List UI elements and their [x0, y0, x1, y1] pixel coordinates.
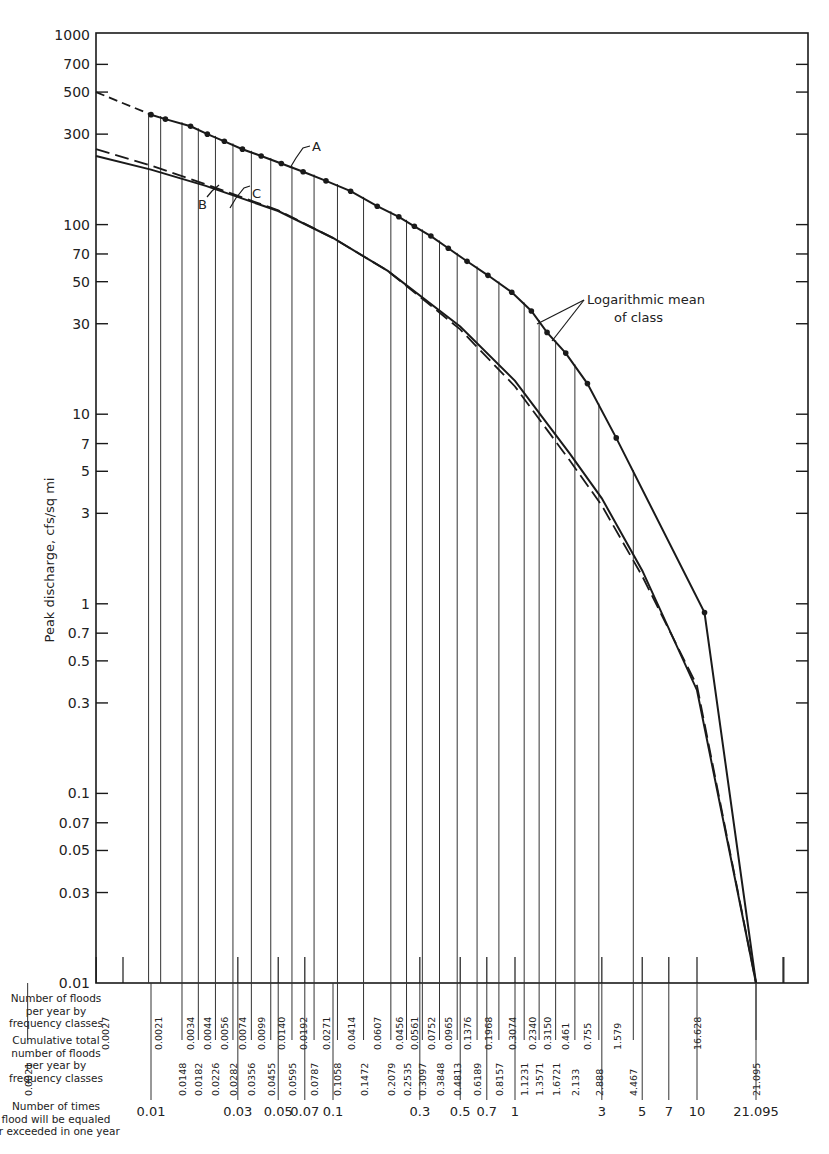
- cumulative-value: 0.0282: [228, 1063, 239, 1096]
- cumulative-value: 0.4813: [452, 1063, 463, 1096]
- curve-b: [96, 156, 756, 983]
- floods-per-class-value: 0.0414: [346, 1017, 357, 1050]
- row-label: per year by: [26, 1005, 86, 1017]
- cumulative-value: 0.6189: [472, 1063, 483, 1096]
- x-tick-label: 10: [689, 1104, 706, 1119]
- x-tick-label: 5: [638, 1104, 646, 1119]
- curve-a: [151, 115, 756, 983]
- y-tick-label: 7: [81, 436, 90, 452]
- y-tick-label: 0.5: [68, 653, 90, 669]
- floods-per-class-value: 0.0271: [321, 1017, 332, 1050]
- cumulative-value: 0.1472: [359, 1063, 370, 1096]
- cumulative-value: 0.0021: [23, 1063, 34, 1096]
- y-tick-label: 5: [81, 463, 90, 479]
- cumulative-value: 0.8157: [494, 1063, 505, 1096]
- y-axis-title: Peak discharge, cfs/sq mi: [42, 478, 57, 643]
- cumulative-value: 2.133: [570, 1069, 581, 1096]
- row-label: Number of floods: [11, 992, 102, 1004]
- plot-border: [96, 33, 808, 983]
- floods-per-class-value: 0.1968: [483, 1017, 494, 1050]
- floods-per-class-value: 0.0044: [202, 1017, 213, 1050]
- cumulative-value: 0.2535: [402, 1063, 413, 1096]
- floods-per-class-value: 0.0752: [426, 1017, 437, 1050]
- x-tick-label: 0.07: [290, 1104, 319, 1119]
- cumulative-value: 0.0595: [287, 1063, 298, 1096]
- cumulative-value: 0.0182: [193, 1063, 204, 1096]
- floods-per-class-value: 1.579: [612, 1023, 623, 1050]
- y-tick-label: 0.7: [68, 625, 90, 641]
- y-tick-label: 300: [63, 126, 90, 142]
- annotations: ACBLogarithmic meanof class: [198, 139, 705, 341]
- label-of-class: of class: [614, 310, 663, 325]
- x-tick-label: 0.01: [137, 1104, 166, 1119]
- row-label: Cumulative total: [12, 1034, 99, 1046]
- y-tick-label: 100: [63, 217, 90, 233]
- x-tick-label: 7: [665, 1104, 673, 1119]
- floods-per-class-value: 0.461: [560, 1023, 571, 1050]
- cumulative-value: 1.6721: [551, 1063, 562, 1096]
- floods-per-class-value: 0.0056: [219, 1017, 230, 1050]
- y-tick-label: 50: [72, 274, 90, 290]
- floods-per-class-value: 0.0607: [372, 1017, 383, 1050]
- y-axis: 10007005003001007050301075310.70.50.30.1…: [54, 27, 808, 991]
- y-tick-label: 500: [63, 84, 90, 100]
- floods-per-class-value: 0.0021: [153, 1017, 164, 1050]
- row-label: flood will be equaled: [2, 1113, 111, 1125]
- y-tick-label: 0.03: [59, 885, 90, 901]
- y-tick-label: 1: [81, 596, 90, 612]
- y-tick-label: 0.1: [68, 785, 90, 801]
- cumulative-value: 0.3097: [417, 1063, 428, 1096]
- x-tick-label: 0.1: [323, 1104, 344, 1119]
- row-label: Number of times: [12, 1100, 100, 1112]
- floods-per-class-value: 0.0074: [237, 1017, 248, 1050]
- cumulative-value: 0.0455: [266, 1063, 277, 1096]
- y-tick-label: 10: [72, 406, 90, 422]
- cumulative-value: 2.888: [594, 1069, 605, 1096]
- floods-per-class-value: 0.2340: [527, 1017, 538, 1050]
- floods-per-class-value: 0.0034: [185, 1017, 196, 1050]
- y-tick-label: 0.07: [59, 815, 90, 831]
- x-tick-label: 0.03: [223, 1104, 252, 1119]
- row-label: frequency classes: [9, 1017, 103, 1029]
- cumulative-value: 1.1231: [519, 1063, 530, 1096]
- label-log-mean: Logarithmic mean: [587, 292, 705, 307]
- cumulative-value: 0.0148: [177, 1063, 188, 1096]
- curve-c: [96, 149, 756, 983]
- label-c: C: [252, 186, 261, 201]
- cumulative-value: 0.1058: [332, 1063, 343, 1096]
- cumulative-value: 0.2079: [386, 1063, 397, 1096]
- cumulative-value: 0.0356: [246, 1063, 257, 1096]
- row-label: number of floods: [11, 1047, 100, 1059]
- x-tick-label: 3: [598, 1104, 606, 1119]
- class-boundary-lines: [149, 113, 634, 983]
- curves: [96, 92, 756, 983]
- floods-per-class-value: 0.0965: [443, 1017, 454, 1050]
- floods-per-class-value: 0.3150: [542, 1017, 553, 1050]
- floods-per-class-value: 0.755: [582, 1023, 593, 1050]
- y-tick-label: 70: [72, 246, 90, 262]
- floods-per-class-value: 0.3074: [507, 1017, 518, 1050]
- cumulative-value: 4.467: [628, 1069, 639, 1096]
- cumulative-value: 0.0787: [309, 1063, 320, 1096]
- x-tick-label: 0.05: [264, 1104, 293, 1119]
- x-tick-label: 0.3: [409, 1104, 430, 1119]
- y-tick-label: 0.01: [59, 975, 90, 991]
- cumulative-value: 0.3848: [435, 1063, 446, 1096]
- x-tick-label: 1: [511, 1104, 519, 1119]
- y-tick-label: 0.3: [68, 695, 90, 711]
- plot-frame: [96, 33, 808, 983]
- row-label: or exceeded in one year: [0, 1125, 120, 1137]
- y-tick-label: 3: [81, 505, 90, 521]
- floods-per-class-value: 0.0027: [100, 1017, 111, 1050]
- y-tick-label: 1000: [54, 27, 90, 43]
- floods-per-class-value: 0.0099: [256, 1017, 267, 1050]
- row-label: per year by: [26, 1059, 86, 1071]
- y-tick-label: 700: [63, 56, 90, 72]
- label-a: A: [312, 139, 321, 154]
- label-b: B: [198, 197, 207, 212]
- floods-per-class-value: 0.0561: [409, 1017, 420, 1050]
- x-tick-label: 21.095: [733, 1104, 779, 1119]
- floods-per-class-value: 0.0456: [394, 1017, 405, 1050]
- x-tick-label: 0.7: [476, 1104, 497, 1119]
- bottom-scales: Number of floodsper year byfrequency cla…: [0, 957, 784, 1137]
